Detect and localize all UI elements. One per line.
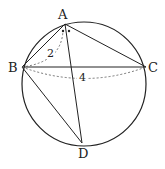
angle-mark-dot (62, 30, 64, 32)
segment-ab (22, 24, 65, 67)
circumcircle (22, 22, 146, 146)
point-label-c: C (148, 60, 158, 75)
geometry-diagram: 2 4 A B C D (0, 0, 165, 169)
point-label-b: B (8, 60, 18, 75)
point-label-a: A (57, 7, 68, 22)
length-label-bc: 4 (79, 71, 86, 84)
angle-mark-dot (68, 30, 70, 32)
point-label-d: D (78, 146, 88, 161)
segment-ac (65, 24, 146, 67)
length-label-ab: 2 (47, 47, 54, 60)
